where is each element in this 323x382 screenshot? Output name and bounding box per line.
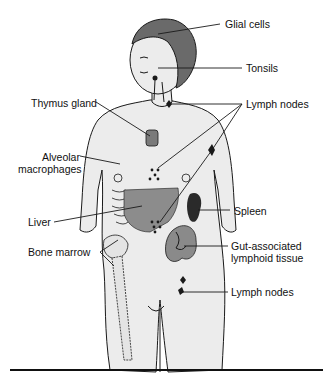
label-gut-associated: Gut-associated <box>231 240 302 252</box>
label-lymph-nodes-upper: Lymph nodes <box>246 98 309 110</box>
label-alveolar: Alveolar <box>42 151 80 163</box>
label-thymus-gland: Thymus gland <box>31 97 97 109</box>
label-tonsils: Tonsils <box>246 62 278 74</box>
label-macrophages: macrophages <box>18 163 82 175</box>
label-spleen: Spleen <box>234 205 267 217</box>
label-bone-marrow: Bone marrow <box>28 246 90 258</box>
bottom-rule <box>10 369 323 371</box>
tonsil-marker <box>153 76 158 81</box>
thymus <box>146 130 158 146</box>
label-liver: Liver <box>28 216 51 228</box>
label-glial-cells: Glial cells <box>225 18 270 30</box>
immune-system-diagram <box>0 0 323 382</box>
label-lymph-nodes-lower: Lymph nodes <box>231 286 294 298</box>
label-lymphoid-tissue: lymphoid tissue <box>231 252 303 264</box>
